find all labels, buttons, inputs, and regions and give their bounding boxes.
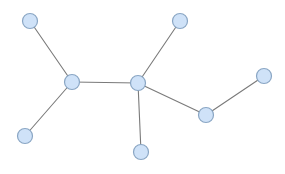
graph-node-n5[interactable] (134, 145, 149, 160)
graph-node-n2[interactable] (18, 129, 33, 144)
graph-diagram (0, 0, 285, 174)
graph-node-n3[interactable] (131, 76, 146, 91)
graph-node-n7[interactable] (257, 69, 272, 84)
graph-node-n4[interactable] (173, 14, 188, 29)
graph-node-n1[interactable] (65, 75, 80, 90)
graph-node-n6[interactable] (199, 108, 214, 123)
graph-node-n0[interactable] (23, 14, 38, 29)
